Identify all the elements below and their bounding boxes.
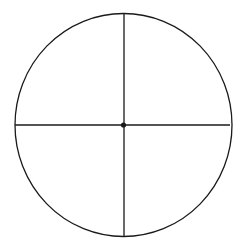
center-point: [121, 122, 126, 127]
diagram-canvas: [0, 0, 243, 251]
circle-crosshair-diagram: [0, 0, 243, 251]
